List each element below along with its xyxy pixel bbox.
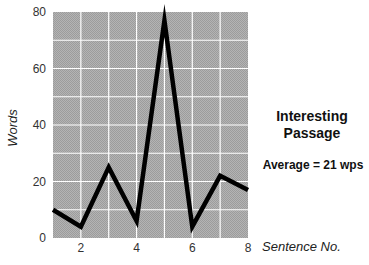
x-axis-ticks: 2468	[78, 241, 252, 255]
x-tick-label: 6	[189, 241, 196, 255]
x-tick-label: 2	[78, 241, 85, 255]
x-tick-label: 4	[133, 241, 140, 255]
chart-title-line-1: Interesting	[262, 108, 362, 125]
chart-title-line-2: Passage	[262, 125, 362, 142]
y-tick-label: 80	[33, 5, 47, 19]
y-tick-label: 0	[39, 231, 46, 245]
y-axis-ticks: 020406080	[33, 5, 47, 245]
y-tick-label: 40	[33, 118, 47, 132]
y-tick-label: 20	[33, 175, 47, 189]
x-axis-label: Sentence No.	[262, 239, 341, 254]
average-annotation: Average = 21 wps	[258, 158, 368, 172]
y-tick-label: 60	[33, 62, 47, 76]
x-tick-label: 8	[245, 241, 252, 255]
y-axis-label: Words	[5, 109, 20, 147]
